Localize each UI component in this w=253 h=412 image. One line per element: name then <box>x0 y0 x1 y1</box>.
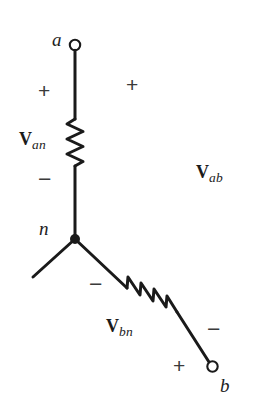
resistor-bn-zigzag <box>127 277 177 312</box>
vbn-subscript: bn <box>119 324 133 339</box>
resistor-an-zigzag <box>67 119 83 166</box>
van-symbol: V <box>19 129 32 149</box>
van-subscript: an <box>32 137 46 152</box>
terminal-a-label: a <box>52 30 62 49</box>
polarity-plus-vbn: + <box>173 355 185 376</box>
terminal-b-circle <box>207 361 217 371</box>
circuit-schematic-svg <box>0 0 253 412</box>
voltage-label-vab: Vab <box>196 163 223 184</box>
voltage-label-vbn: Vbn <box>106 317 133 338</box>
polarity-minus-van: − <box>38 168 51 191</box>
circuit-diagram: a + Van − + Vab n − Vbn − + b <box>0 0 253 412</box>
polarity-minus-vbn: − <box>89 273 102 296</box>
polarity-minus-vab: − <box>207 318 220 341</box>
node-n-label: n <box>39 219 49 238</box>
terminal-b-label: b <box>220 376 230 395</box>
vbn-symbol: V <box>106 316 119 336</box>
voltage-label-van: Van <box>19 130 46 151</box>
wire-node-to-third-phase <box>33 239 75 277</box>
polarity-plus-vab: + <box>126 74 138 95</box>
polarity-plus-van: + <box>38 80 50 101</box>
terminal-a-circle <box>70 40 80 50</box>
vab-subscript: ab <box>209 170 223 185</box>
vab-symbol: V <box>196 162 209 182</box>
